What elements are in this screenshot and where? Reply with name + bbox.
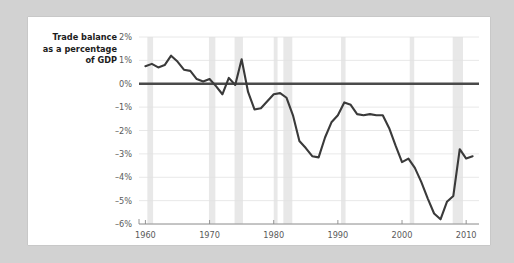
x-axis-tick-labels: 196019701980199020002010 [135,230,477,240]
y-axis-tick-label: 0% [119,79,132,89]
y-axis-tick-labels: 2%1%0%–1%–2%–3%–4%–5%–6% [115,32,132,229]
trade-balance-series-line [145,56,472,220]
y-axis-tick-label: –3% [115,149,132,159]
x-axis-tick-label: 1960 [135,230,156,240]
y-axis-tick-label: –1% [115,102,132,112]
x-axis-tick-label: 1980 [263,230,284,240]
y-axis-tick-label: –4% [115,172,132,182]
y-axis-tick-label: –6% [115,219,132,229]
y-axis-tick-label: 2% [119,32,132,42]
x-axis-tick-label: 1990 [327,230,348,240]
chart-title: Trade balanceas a percentageof GDP [43,32,118,65]
gridlines-group [139,37,479,224]
chart-card: 2%1%0%–1%–2%–3%–4%–5%–6% 196019701980199… [28,17,490,245]
chart-title-line: as a percentage [43,44,118,54]
x-axis-group [139,219,479,224]
x-axis-tick-label: 2010 [456,230,477,240]
y-axis-tick-label: 1% [119,55,132,65]
x-axis-tick-label: 2000 [392,230,413,240]
y-axis-tick-label: –2% [115,126,132,136]
y-axis-tick-label: –5% [115,196,132,206]
chart-title-line: Trade balance [53,32,118,42]
trade-balance-line-chart: 2%1%0%–1%–2%–3%–4%–5%–6% 196019701980199… [28,17,490,245]
x-axis-tick-label: 1970 [199,230,220,240]
chart-title-line: of GDP [85,55,117,65]
page-root: 2%1%0%–1%–2%–3%–4%–5%–6% 196019701980199… [0,0,514,263]
